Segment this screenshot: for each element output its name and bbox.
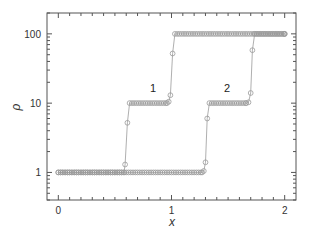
data-point-marker xyxy=(282,32,287,37)
data-point-marker xyxy=(168,93,173,98)
y-axis-label: ρ xyxy=(9,103,23,111)
data-point-marker xyxy=(250,48,255,53)
y-tick-label: 10 xyxy=(30,98,42,109)
data-point-marker xyxy=(125,120,130,125)
data-point-marker xyxy=(123,162,128,167)
data-point-marker xyxy=(170,51,175,56)
data-point-marker xyxy=(166,99,171,104)
data-point-marker xyxy=(205,116,210,121)
data-point-marker xyxy=(248,91,253,96)
data-point-marker xyxy=(201,169,206,174)
data-point-marker xyxy=(203,160,208,165)
curve-label-2: 2 xyxy=(224,82,230,94)
y-tick-label: 100 xyxy=(24,29,41,40)
plot-curves xyxy=(56,32,287,175)
tick-labels: 012110100 xyxy=(24,29,288,216)
x-axis-label: x xyxy=(168,215,176,229)
data-point-marker xyxy=(246,100,251,105)
x-tick-label: 0 xyxy=(56,205,62,216)
curve-label-1: 1 xyxy=(150,82,156,94)
step-chart: 012110100 x ρ 1 2 xyxy=(0,0,312,239)
y-tick-label: 1 xyxy=(35,167,41,178)
x-tick-label: 2 xyxy=(282,205,288,216)
